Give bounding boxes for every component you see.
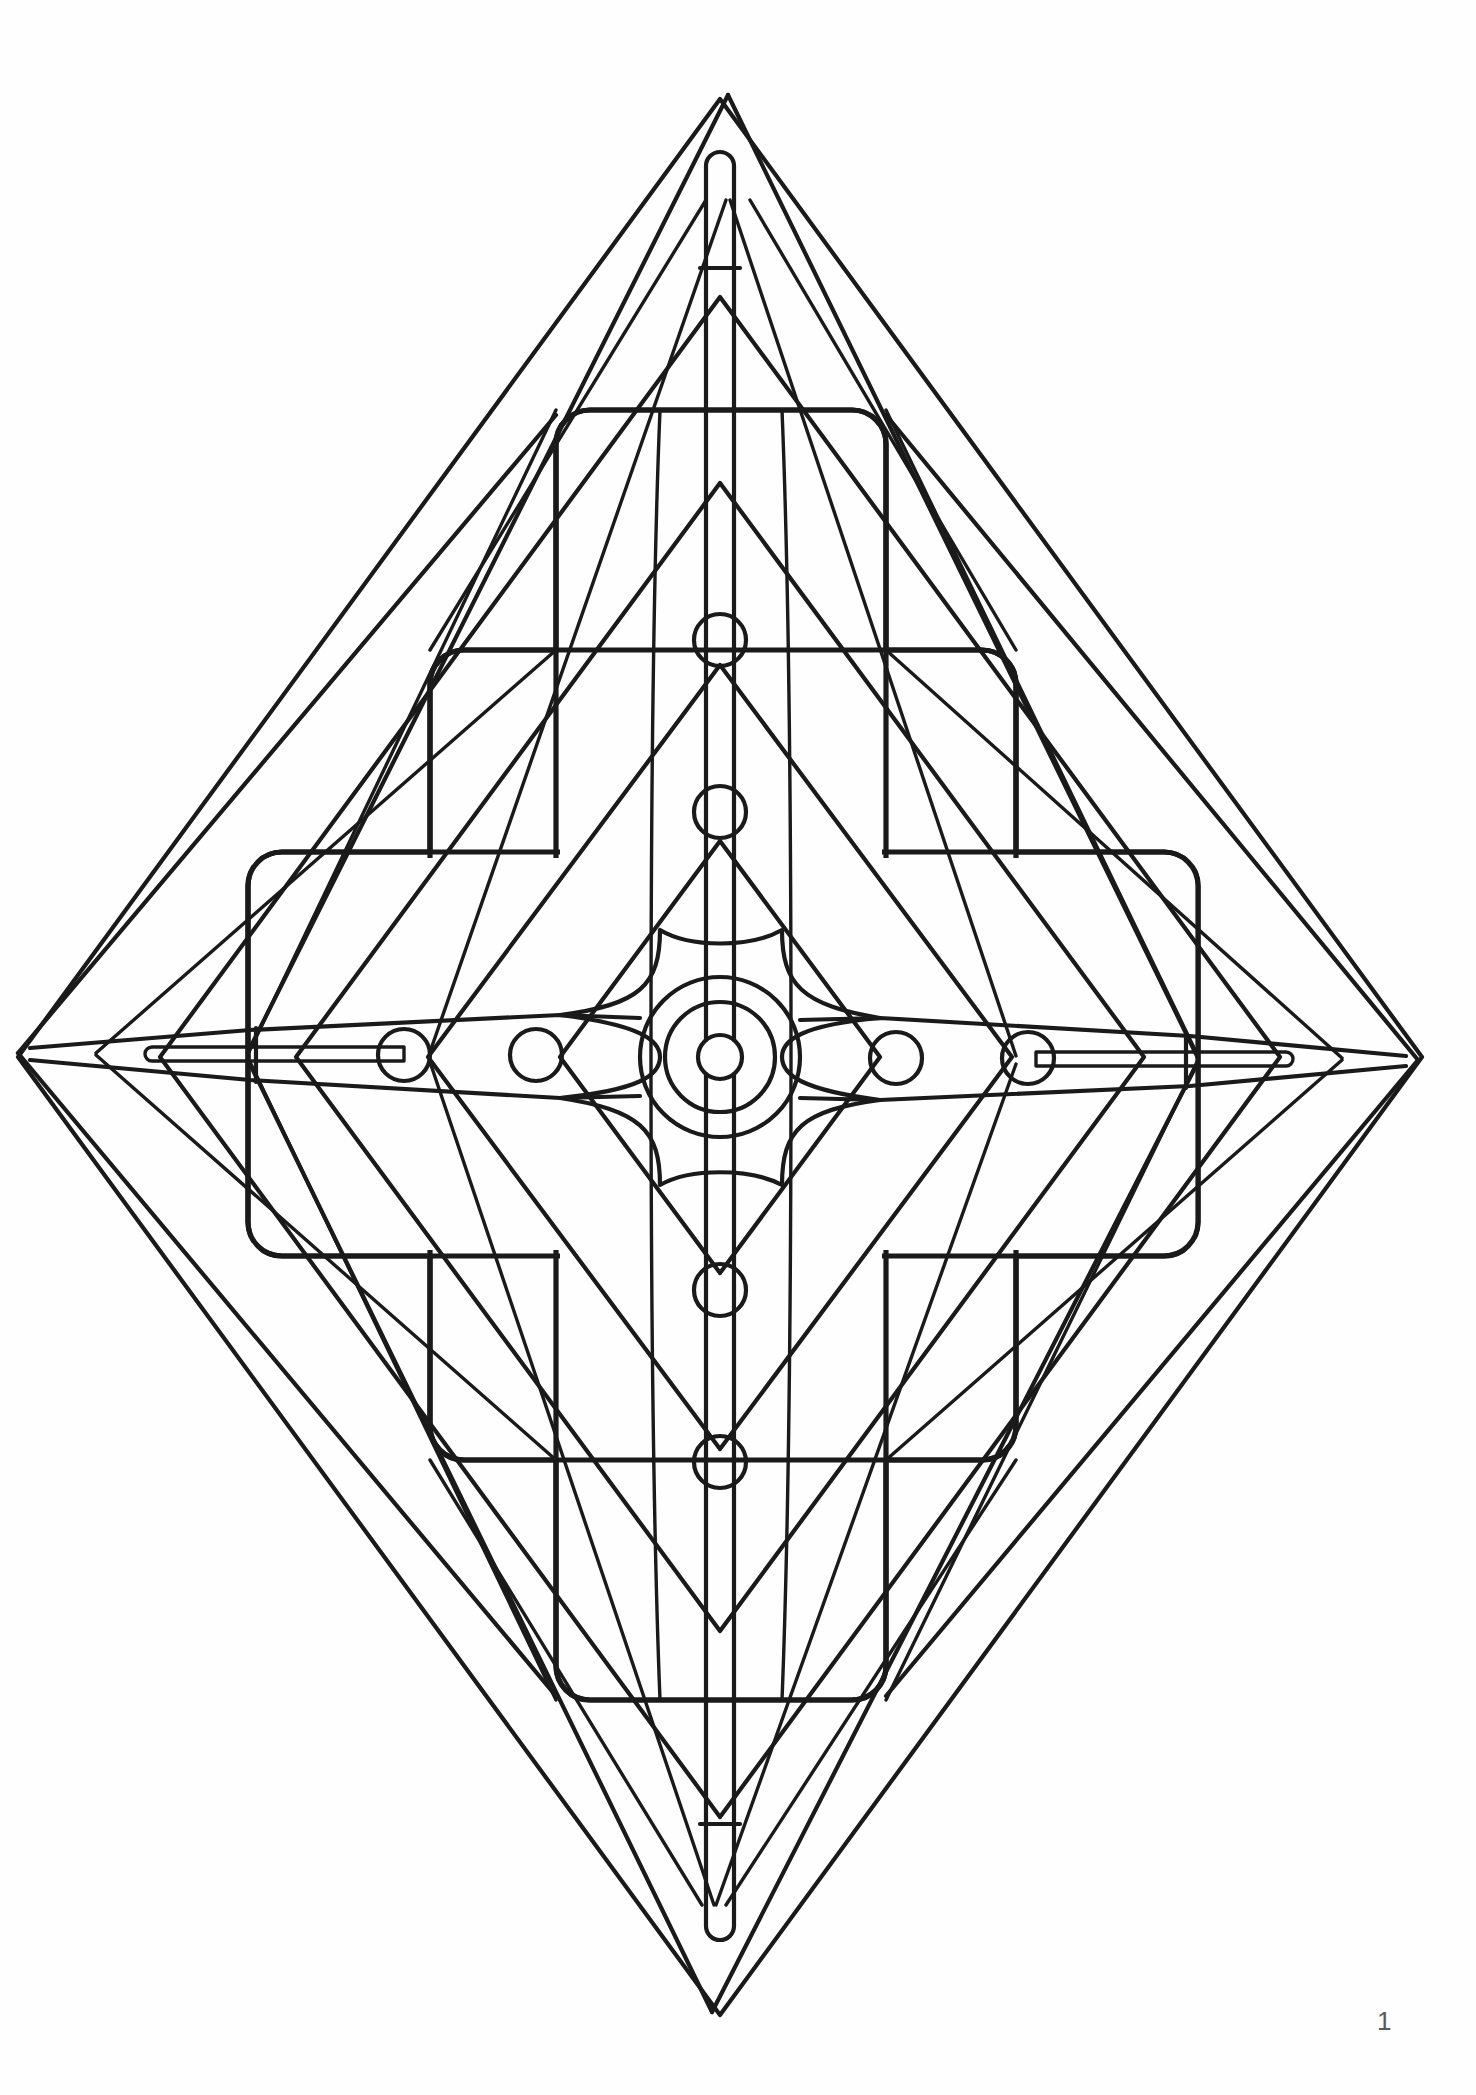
chord-br-2 xyxy=(726,1460,1016,1905)
chord-bl-2 xyxy=(430,1460,702,1905)
chord-tl-2 xyxy=(430,200,706,650)
coloring-page: 1 xyxy=(0,0,1476,2095)
page-number: 1 xyxy=(1377,2006,1392,2037)
frame-mask-d xyxy=(560,656,882,1454)
chord-tr-2 xyxy=(750,200,1016,650)
star-mandala-artwork xyxy=(0,0,1476,2095)
